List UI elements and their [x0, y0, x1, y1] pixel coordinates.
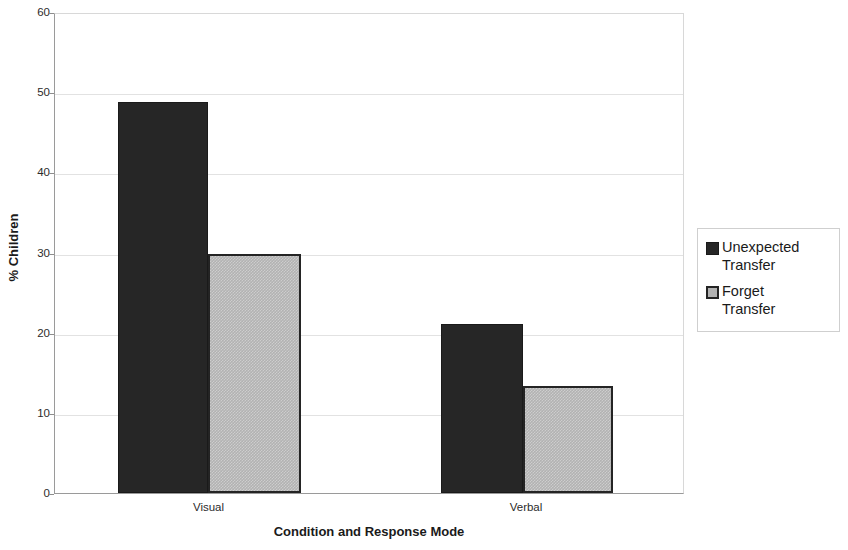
- legend-entry: Forget Transfer: [706, 283, 833, 318]
- y-axis-tick-mark: [49, 494, 54, 495]
- y-axis-tick-label: 30: [4, 248, 50, 260]
- legend-entry: Unexpected Transfer: [706, 239, 833, 274]
- bar-group-container: [55, 14, 683, 493]
- legend: Unexpected TransferForget Transfer: [697, 228, 840, 332]
- legend-swatch-icon: [706, 242, 719, 255]
- x-axis-title: Condition and Response Mode: [54, 524, 684, 539]
- bar: [523, 386, 613, 493]
- bar: [441, 324, 523, 493]
- plot-area: [54, 13, 684, 494]
- bar: [118, 102, 208, 493]
- x-axis-tick-labels: VisualVerbal: [54, 497, 684, 521]
- legend-swatch-icon: [706, 286, 719, 299]
- x-axis-tick-label: Visual: [193, 501, 224, 513]
- y-axis-tick-label: 40: [4, 168, 50, 180]
- y-axis-tick-label: 0: [4, 488, 50, 500]
- y-axis-tick-label: 50: [4, 87, 50, 99]
- x-axis-tick-label: Verbal: [510, 501, 543, 513]
- legend-label: Forget Transfer: [722, 283, 775, 318]
- legend-label: Unexpected Transfer: [722, 239, 799, 274]
- y-axis-tick-label: 60: [4, 7, 50, 19]
- y-axis-tick-label: 10: [4, 408, 50, 420]
- bar: [208, 254, 301, 493]
- bar-chart-figure: % Children 0102030405060 VisualVerbal Co…: [0, 0, 848, 550]
- y-axis-tick-label: 20: [4, 328, 50, 340]
- y-axis-tick-labels: 0102030405060: [0, 0, 50, 550]
